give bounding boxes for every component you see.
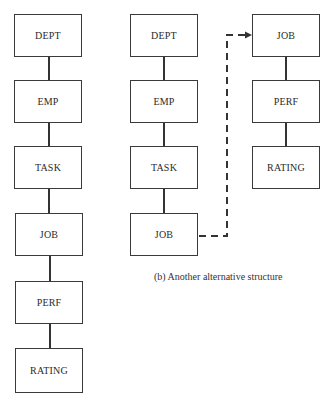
- arrowhead-icon: [245, 32, 252, 39]
- figure-caption: (b) Another alternative structure: [154, 271, 283, 282]
- dashed-pointer-arrow: [0, 0, 331, 400]
